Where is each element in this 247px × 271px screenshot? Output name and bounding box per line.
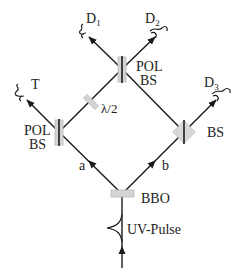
bbo-crystal — [111, 190, 134, 197]
beam-to-d1 — [89, 37, 122, 69]
d2-label: D2 — [145, 11, 160, 28]
path-a — [59, 132, 122, 194]
bbo-label: BBO — [141, 191, 170, 206]
left-pbs-label-line1: POL — [24, 123, 50, 138]
top-pbs-label-line2: BS — [140, 73, 157, 88]
top-pbs-label-line1: POL — [136, 59, 162, 74]
path-b-label: b — [162, 158, 169, 173]
path-b — [122, 132, 184, 194]
trigger-fiber-icon — [15, 84, 24, 101]
path-a-label: a — [79, 158, 86, 173]
pump-beam — [107, 194, 126, 268]
uv-pulse-label: UV-Pulse — [127, 222, 181, 237]
trigger-label: T — [31, 77, 40, 92]
right-bs-label: BS — [207, 125, 224, 140]
uv-pulse-shape — [107, 214, 122, 242]
left-polarizing-beam-splitter — [55, 119, 63, 146]
left-pbs-label-line2: BS — [29, 137, 46, 152]
d1-fiber-icon — [80, 24, 86, 38]
pump-arrow-icon — [119, 246, 126, 254]
half-wave-plate-label: λ/2 — [101, 101, 117, 116]
d2-fiber-icon — [150, 27, 167, 38]
top-polarizing-beam-splitter — [118, 56, 126, 83]
d3-label: D3 — [204, 75, 219, 92]
d1-label: D1 — [86, 11, 101, 28]
optical-setup-diagram: D1 D2 D3 T POL BS POL BS BS λ/2 a b BBO … — [0, 0, 247, 271]
half-wave-plate — [84, 95, 99, 110]
